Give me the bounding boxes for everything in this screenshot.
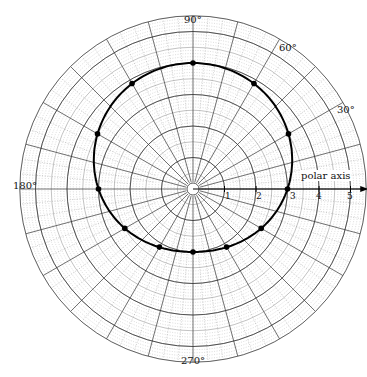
radial-tick-4: 4: [316, 191, 322, 201]
angle-label-90: 90°: [184, 14, 202, 25]
angle-label-30: 30°: [337, 104, 355, 115]
polar-graph: [0, 0, 367, 377]
polar-axis-label: polar axis: [300, 170, 351, 181]
radial-tick-1: 1: [225, 191, 231, 201]
angle-label-270: 270°: [181, 355, 205, 366]
radial-tick-3: 3: [290, 191, 296, 201]
radial-tick-5: 5: [347, 191, 353, 201]
radial-tick-2: 2: [256, 191, 262, 201]
angle-label-180: 180°: [13, 180, 37, 191]
angle-label-60: 60°: [279, 42, 297, 53]
